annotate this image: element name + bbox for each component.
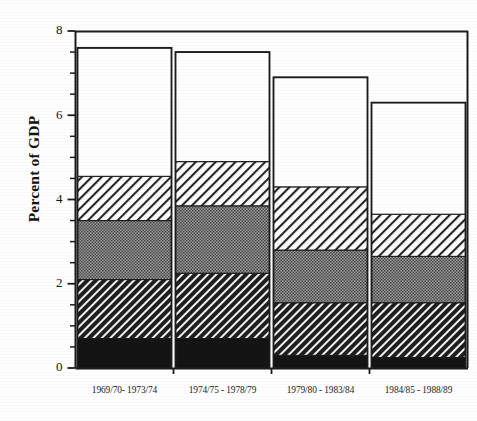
bar-2-segment-1-solid-black — [176, 339, 270, 368]
bar-3-segment-2-dark-hatch — [274, 303, 368, 356]
stacked-bar-chart: 02468 1969/70- 1973/741974/75 - 1978/791… — [0, 0, 477, 421]
bar-1-segment-5-white — [78, 48, 172, 176]
bar-2 — [176, 52, 270, 368]
bar-4-segment-1-solid-black — [372, 357, 466, 368]
x-axis-label-3: 1979/80 - 1983/84 — [287, 385, 355, 395]
x-axis-labels: 1969/70- 1973/741974/75 - 1978/791979/80… — [92, 368, 453, 395]
bar-3-segment-3-gray-stipple — [274, 250, 368, 303]
y-tick-label: 4 — [56, 191, 63, 206]
y-axis-ticks: 02468 — [56, 22, 76, 374]
bar-1 — [78, 48, 172, 368]
x-axis-label-2: 1974/75 - 1978/79 — [189, 385, 257, 395]
bar-2-segment-3-gray-stipple — [176, 206, 270, 273]
bar-3 — [274, 77, 368, 368]
bar-2-segment-2-dark-hatch — [176, 273, 270, 338]
x-axis-label-1: 1969/70- 1973/74 — [92, 385, 158, 395]
chart-container: Percent of GDP — [0, 0, 477, 421]
bar-1-segment-3-gray-stipple — [78, 221, 172, 280]
bar-4-segment-2-dark-hatch — [372, 303, 466, 358]
bar-3-segment-4-light-hatch — [274, 187, 368, 250]
bar-4-segment-4-light-hatch — [372, 214, 466, 256]
x-axis-label-4: 1984/85 - 1988/89 — [385, 385, 453, 395]
bar-4 — [372, 103, 466, 368]
y-tick-label: 6 — [56, 107, 63, 122]
bar-2-segment-5-white — [176, 52, 270, 162]
bar-3-segment-5-white — [274, 77, 368, 187]
bars-group — [78, 48, 466, 368]
bar-3-segment-1-solid-black — [274, 355, 368, 368]
bar-2-segment-4-light-hatch — [176, 162, 270, 206]
y-tick-label: 8 — [56, 22, 63, 37]
y-tick-label: 0 — [56, 359, 63, 374]
bar-4-segment-5-white — [372, 103, 466, 215]
bar-1-segment-4-light-hatch — [78, 176, 172, 220]
y-tick-label: 2 — [56, 275, 63, 290]
bar-4-segment-3-gray-stipple — [372, 256, 466, 302]
bar-1-segment-2-dark-hatch — [78, 280, 172, 339]
bar-1-segment-1-solid-black — [78, 339, 172, 368]
